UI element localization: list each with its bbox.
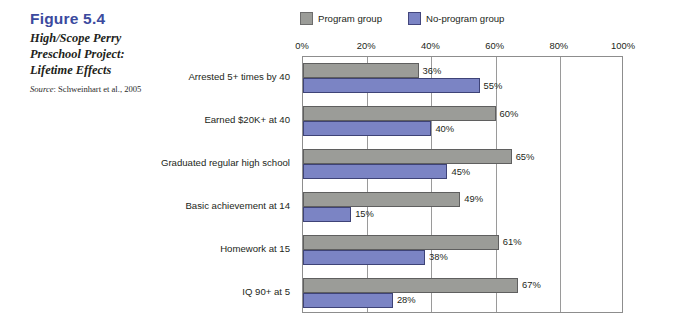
legend-item-noprogram[interactable]: No-program group [408,12,504,25]
gridline [560,57,561,312]
category-label: Earned $20K+ at 40 [148,114,290,126]
legend-swatch-program [300,12,313,25]
figure-number: Figure 5.4 [30,10,180,28]
bar-value-label: 15% [355,210,374,219]
bar-noprogram[interactable] [303,207,351,222]
gridline [496,57,497,312]
source-word: Source [30,84,54,94]
bar-noprogram[interactable] [303,164,447,179]
x-axis-tick-100: 100% [611,40,635,51]
gridline [431,57,432,312]
category-label: Arrested 5+ times by 40 [148,72,290,84]
category-label: Basic achievement at 14 [148,200,290,212]
bar-value-label: 67% [522,280,541,289]
bar-value-label: 49% [464,195,483,204]
gridline [367,57,368,312]
chart-legend: Program groupNo-program group [300,12,504,25]
category-label-column: Arrested 5+ times by 40Earned $20K+ at 4… [150,56,296,313]
bar-program[interactable] [303,63,419,78]
category-label: Graduated regular high school [148,157,290,169]
bar-value-label: 65% [516,152,535,161]
figure-source: Source: Schweinhart et al., 2005 [30,84,155,95]
bar-value-label: 45% [451,167,470,176]
bar-program[interactable] [303,235,499,250]
bar-noprogram[interactable] [303,293,393,308]
bar-value-label: 38% [429,253,448,262]
legend-label: No-program group [426,14,504,24]
bar-program[interactable] [303,278,518,293]
x-axis-tick-20: 20% [357,40,376,51]
x-axis-tick-0: 0% [295,40,309,51]
legend-swatch-noprogram [408,12,421,25]
bar-value-label: 28% [397,295,416,304]
bar-noprogram[interactable] [303,250,425,265]
bar-value-label: 60% [500,109,519,118]
figure-title: High/Scope Perry Preschool Project: Life… [30,31,150,79]
x-axis-tick-labels: 0%20%40%60%80%100% [0,40,675,54]
x-axis-tick-40: 40% [421,40,440,51]
x-axis-tick-60: 60% [485,40,504,51]
legend-item-program[interactable]: Program group [300,12,382,25]
bar-program[interactable] [303,149,512,164]
bar-value-label: 55% [484,81,503,90]
bar-program[interactable] [303,106,496,121]
bar-value-label: 36% [423,66,442,75]
bar-value-label: 61% [503,238,522,247]
category-label: Homework at 15 [148,243,290,255]
x-axis-tick-80: 80% [549,40,568,51]
bar-noprogram[interactable] [303,121,431,136]
category-label: IQ 90+ at 5 [148,286,290,298]
bar-value-label: 40% [435,124,454,133]
source-text: : Schweinhart et al., 2005 [54,84,142,94]
bar-program[interactable] [303,192,460,207]
bar-noprogram[interactable] [303,78,480,93]
plot-area: 36%55%60%40%65%45%49%15%61%38%67%28% [302,56,623,313]
legend-label: Program group [318,14,382,24]
